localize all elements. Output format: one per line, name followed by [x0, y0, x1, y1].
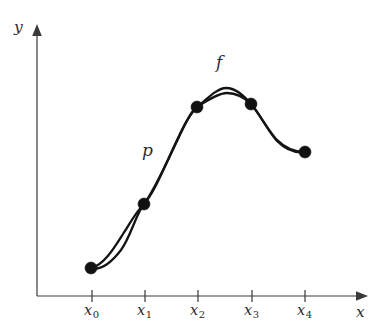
tick-label-x2-subscript: 2 [199, 309, 205, 320]
tick-label-x2: x2 [190, 303, 205, 320]
curve-p [91, 93, 305, 269]
curve-f [91, 88, 305, 268]
tick-label-x3-subscript: 3 [253, 309, 259, 320]
plot-canvas [0, 0, 384, 333]
tick-label-x2-base: x [190, 302, 198, 318]
tick-label-x1: x1 [137, 303, 152, 320]
tick-label-x1-subscript: 1 [146, 309, 152, 320]
tick-label-x3-base: x [244, 302, 252, 318]
tick-label-x0: x0 [84, 303, 99, 320]
tick-label-x1-base: x [137, 302, 145, 318]
curve-label-f: f [216, 54, 222, 71]
tick-label-x0-base: x [84, 302, 92, 318]
node-point-x3 [245, 98, 257, 110]
x-axis-label: x [356, 305, 365, 321]
tick-label-x0-subscript: 0 [93, 309, 99, 320]
node-point-x4 [299, 146, 311, 158]
x-axis-arrow-icon [356, 291, 368, 301]
interpolation-nodes [85, 98, 311, 274]
node-point-x1 [138, 198, 150, 210]
tick-label-x4-base: x [297, 302, 305, 318]
node-point-x0 [85, 262, 97, 274]
curve-label-p: p [142, 142, 153, 159]
tick-label-x4-subscript: 4 [306, 309, 312, 320]
y-axis-label: y [14, 20, 23, 36]
y-axis-arrow-icon [32, 24, 42, 36]
node-point-x2 [191, 101, 203, 113]
interpolation-figure: y x f p x0 x1 x2 x3 x4 [0, 0, 384, 333]
tick-label-x4: x4 [297, 303, 312, 320]
tick-label-x3: x3 [244, 303, 259, 320]
